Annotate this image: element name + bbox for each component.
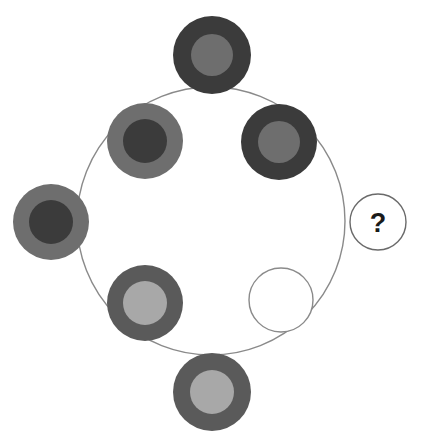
circle-pattern-puzzle-figure: ? — [0, 0, 427, 447]
pattern-nodes-group — [13, 16, 317, 431]
pattern-node-bottom[interactable] — [173, 353, 251, 431]
pattern-node-upper-left[interactable] — [107, 103, 183, 179]
question-mark-glyph: ? — [370, 208, 387, 238]
node-inner-dot-bottom — [190, 370, 234, 414]
node-inner-dot-left — [29, 200, 73, 244]
pattern-node-top[interactable] — [173, 16, 251, 94]
pattern-node-left[interactable] — [13, 184, 89, 260]
empty-slot-circle[interactable] — [249, 268, 313, 332]
node-inner-dot-upper-left — [123, 119, 167, 163]
pattern-node-lower-left[interactable] — [107, 265, 183, 341]
pattern-node-upper-right[interactable] — [241, 104, 317, 180]
puzzle-stage: ? — [0, 0, 427, 447]
node-inner-dot-upper-right — [258, 121, 300, 163]
node-inner-dot-top — [191, 34, 233, 76]
answer-slot-group[interactable]: ? — [350, 194, 406, 250]
node-inner-dot-lower-left — [123, 281, 167, 325]
